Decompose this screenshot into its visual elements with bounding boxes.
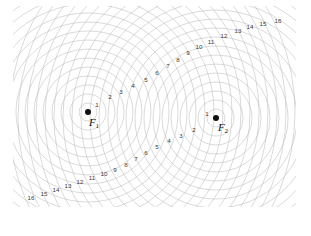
- lower-branch-label-5: 5: [155, 144, 158, 150]
- upper-branch-label-9: 9: [186, 50, 189, 56]
- upper-branch-label-5: 5: [144, 77, 147, 83]
- f2-ring-14: [90, 0, 311, 236]
- lower-branch-label-9: 9: [113, 167, 116, 173]
- f1-ring-12: [0, 4, 196, 220]
- upper-branch-label-12: 12: [221, 33, 228, 39]
- upper-branch-label-11: 11: [208, 39, 214, 45]
- upper-branch-label-4: 4: [131, 83, 134, 89]
- focus-label-f2: F2: [218, 122, 228, 133]
- focus-ring-label-f1: 1: [95, 102, 98, 108]
- focus-ring-label-f2: 1: [205, 111, 208, 117]
- upper-branch-label-2: 2: [108, 94, 111, 100]
- lower-branch-label-16: 16: [28, 195, 35, 201]
- lower-branch-label-11: 11: [89, 175, 95, 181]
- confocal-circles-figure: 2345678910111213141516 23456789101112131…: [0, 0, 311, 236]
- upper-branch-label-7: 7: [166, 63, 169, 69]
- upper-branch-label-8: 8: [176, 57, 179, 63]
- lower-branch-label-4: 4: [167, 138, 170, 144]
- lower-branch-label-6: 6: [144, 150, 147, 156]
- f1-ring-20: [0, 0, 268, 236]
- lower-branch-label-2: 2: [192, 127, 195, 133]
- lower-branch-label-14: 14: [53, 187, 60, 193]
- upper-branch-label-13: 13: [235, 28, 242, 34]
- focus-subscript-f2: 2: [225, 127, 229, 135]
- lower-branch-label-15: 15: [41, 191, 48, 197]
- f1-ring-21: [0, 0, 277, 236]
- lower-branch-label-13: 13: [65, 183, 72, 189]
- upper-branch-label-10: 10: [196, 44, 203, 50]
- lower-branch-label-7: 7: [134, 156, 137, 162]
- upper-branch-label-16: 16: [275, 18, 282, 24]
- lower-branch-label-12: 12: [77, 179, 84, 185]
- focus-dot-f1: [85, 109, 91, 115]
- focus-label-f1: F1: [89, 117, 99, 128]
- focus-letter-f2: F: [218, 121, 225, 133]
- circle-family-f1: [0, 0, 295, 236]
- lower-branch-label-3: 3: [179, 133, 182, 139]
- upper-branch-label-3: 3: [119, 89, 122, 95]
- f1-ring-16: [0, 0, 232, 236]
- upper-branch-label-14: 14: [247, 24, 254, 30]
- lower-branch-label-10: 10: [101, 171, 108, 177]
- focus-letter-f1: F: [89, 116, 96, 128]
- upper-branch-label-6: 6: [155, 70, 158, 76]
- focus-subscript-f1: 1: [96, 122, 100, 130]
- lower-branch-label-8: 8: [124, 162, 127, 168]
- circle-grid-svg: [0, 0, 311, 236]
- upper-branch-label-15: 15: [260, 21, 267, 27]
